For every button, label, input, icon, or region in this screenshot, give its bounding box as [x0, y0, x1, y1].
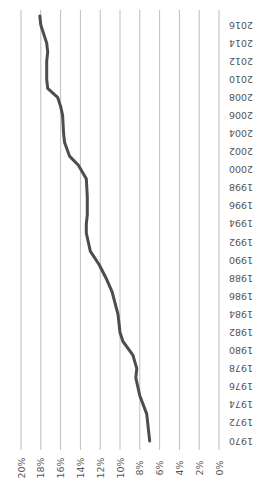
year-tick-label: 1982: [229, 327, 253, 338]
percent-tick-label: 18%: [35, 457, 46, 478]
year-tick-label: 2004: [229, 128, 253, 139]
data-line: [40, 16, 150, 441]
percent-tick-label: 20%: [16, 457, 27, 478]
year-tick-label: 2016: [229, 20, 253, 31]
percent-tick-label: 16%: [55, 457, 66, 478]
line-chart: 0%2%4%6%8%10%12%14%16%18%20% 19701972197…: [0, 0, 271, 490]
year-tick-label: 2008: [229, 92, 253, 103]
year-tick-label: 1972: [229, 417, 253, 428]
year-tick-label: 1980: [229, 345, 253, 356]
gridlines: [21, 10, 219, 450]
year-tick-label: 1992: [229, 237, 253, 248]
year-tick-label: 2010: [229, 74, 253, 85]
percent-tick-label: 12%: [95, 457, 106, 478]
year-tick-label: 1976: [229, 381, 253, 392]
year-tick-label: 1974: [229, 399, 253, 410]
percent-tick-label: 8%: [134, 460, 145, 475]
year-tick-label: 1986: [229, 291, 253, 302]
year-tick-label: 1978: [229, 363, 253, 374]
percent-tick-label: 10%: [115, 457, 126, 478]
percent-tick-label: 6%: [154, 460, 165, 475]
percent-tick-label: 4%: [174, 460, 185, 475]
year-tick-label: 1984: [229, 309, 253, 320]
percent-tick-label: 2%: [194, 460, 205, 475]
year-tick-label: 2000: [229, 164, 253, 175]
year-tick-label: 1990: [229, 255, 253, 266]
year-tick-label: 2006: [229, 110, 253, 121]
year-tick-label: 2014: [229, 38, 253, 49]
year-tick-label: 2012: [229, 56, 253, 67]
percent-tick-label: 14%: [75, 457, 86, 478]
year-axis-labels: 1970197219741976197819801982198419861988…: [229, 20, 253, 447]
year-tick-label: 1996: [229, 200, 253, 211]
percent-axis-labels: 0%2%4%6%8%10%12%14%16%18%20%: [16, 457, 225, 478]
year-tick-label: 1998: [229, 182, 253, 193]
year-tick-label: 1988: [229, 273, 253, 284]
year-tick-label: 1970: [229, 436, 253, 447]
percent-tick-label: 0%: [214, 460, 225, 475]
year-tick-label: 1994: [229, 218, 253, 229]
year-tick-label: 2002: [229, 146, 253, 157]
